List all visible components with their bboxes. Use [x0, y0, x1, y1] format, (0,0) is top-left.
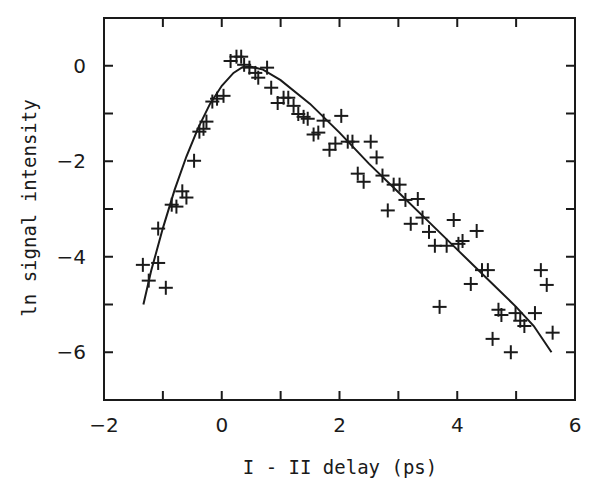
plus-marker	[136, 258, 150, 272]
x-tick-label: 4	[451, 413, 464, 437]
plus-marker	[528, 306, 542, 320]
plus-marker	[151, 256, 165, 270]
plus-marker	[416, 211, 430, 225]
fit-curve	[143, 67, 551, 353]
plus-marker	[411, 192, 425, 206]
plus-marker	[187, 154, 201, 168]
plus-marker	[364, 135, 378, 149]
plus-marker	[159, 281, 173, 295]
y-tick-label: −6	[57, 340, 86, 364]
data-points	[136, 50, 560, 360]
plus-marker	[540, 278, 554, 292]
plot-frame	[104, 18, 575, 400]
plus-marker	[317, 114, 331, 128]
fit-line	[143, 67, 551, 353]
plus-marker	[370, 150, 384, 164]
plus-marker	[440, 239, 454, 253]
plus-marker	[142, 274, 156, 288]
axis-ticks	[104, 18, 575, 400]
plus-marker	[199, 115, 213, 129]
plus-marker	[546, 326, 560, 340]
x-tick-label: 0	[215, 413, 228, 437]
plus-marker	[433, 300, 447, 314]
y-tick-labels: 0−2−4−6	[57, 54, 86, 365]
y-tick-label: −2	[57, 149, 86, 173]
y-tick-label: 0	[73, 54, 86, 78]
plus-marker	[486, 332, 500, 346]
plus-marker	[334, 109, 348, 123]
x-axis-title: I - II delay (ps)	[243, 456, 437, 478]
plus-marker	[151, 222, 165, 236]
scatter-chart: −20246 0−2−4−6 I - II delay (ps) ln sign…	[0, 0, 597, 488]
x-tick-label: 6	[569, 413, 582, 437]
plus-marker	[464, 277, 478, 291]
plus-marker	[381, 203, 395, 217]
x-tick-label: −2	[89, 413, 118, 437]
y-tick-label: −4	[57, 245, 86, 269]
plot-border	[104, 18, 575, 400]
y-axis-title: ln signal intensity	[18, 99, 40, 316]
plus-marker	[447, 213, 461, 227]
plus-marker	[404, 217, 418, 231]
x-tick-label: 2	[333, 413, 346, 437]
plus-marker	[504, 345, 518, 359]
plus-marker	[264, 81, 278, 95]
plus-marker	[470, 224, 484, 238]
x-tick-labels: −20246	[89, 413, 581, 437]
plus-marker	[534, 263, 548, 277]
